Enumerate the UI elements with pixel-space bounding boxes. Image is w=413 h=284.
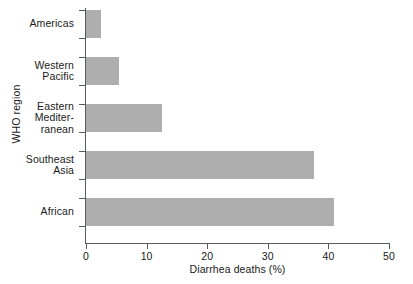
y-axis-label-line: Asia (4, 165, 74, 177)
bar-southeast-asia (86, 151, 314, 179)
x-tick-20 (207, 244, 208, 249)
y-tick-americas-top (79, 10, 85, 11)
y-tick-eastern-mediterranean-bottom (79, 132, 85, 133)
y-axis-label-southeast-asia: SoutheastAsia (4, 154, 74, 177)
x-axis-label-40: 40 (313, 250, 343, 262)
y-axis-label-americas: Americas (4, 18, 74, 30)
bar-eastern-mediterranean (86, 104, 162, 132)
x-tick-0 (86, 244, 87, 249)
x-tick-40 (328, 244, 329, 249)
y-axis-label-eastern-mediterranean: EasternMediter-ranean (4, 101, 74, 136)
y-tick-americas-bottom (79, 38, 85, 39)
y-tick-african-top (79, 198, 85, 199)
y-tick-western-pacific-top (79, 57, 85, 58)
x-axis-label-0: 0 (71, 250, 101, 262)
bar-americas (86, 10, 101, 38)
y-axis-label-african: African (4, 206, 74, 218)
x-tick-50 (389, 244, 390, 249)
y-axis-label-line: ranean (4, 124, 74, 136)
x-axis-label-10: 10 (132, 250, 162, 262)
bar-chart: WHO region Diarrhea deaths (%) AmericasW… (0, 0, 413, 284)
bar-african (86, 198, 334, 226)
y-axis-label-western-pacific: WesternPacific (4, 60, 74, 83)
x-tick-10 (147, 244, 148, 249)
y-tick-eastern-mediterranean-top (79, 104, 85, 105)
y-axis-label-line: Pacific (4, 71, 74, 83)
x-tick-30 (268, 244, 269, 249)
x-axis-line (86, 243, 390, 244)
x-axis-label-30: 30 (253, 250, 283, 262)
y-axis-label-line: Americas (4, 18, 74, 30)
x-axis-label-20: 20 (192, 250, 222, 262)
x-axis-label-50: 50 (374, 250, 404, 262)
y-tick-southeast-asia-bottom (79, 179, 85, 180)
y-tick-southeast-asia-top (79, 151, 85, 152)
y-tick-western-pacific-bottom (79, 85, 85, 86)
bar-western-pacific (86, 57, 119, 85)
y-tick-african-bottom (79, 226, 85, 227)
y-axis-label-line: African (4, 206, 74, 218)
x-axis-title: Diarrhea deaths (%) (86, 263, 389, 275)
